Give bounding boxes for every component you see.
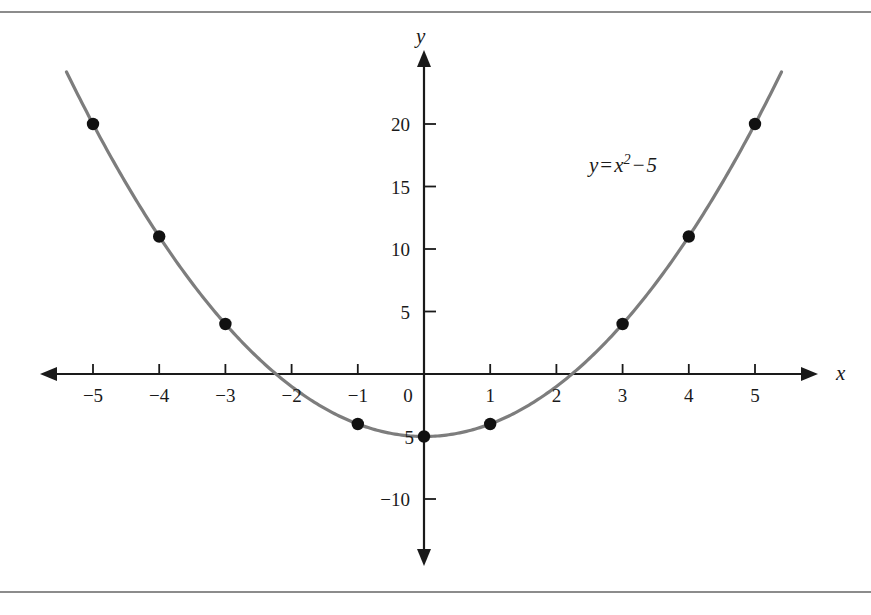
y-tick-label: 10 — [391, 240, 410, 259]
x-axis-arrow-left — [40, 367, 57, 381]
data-point — [153, 230, 165, 242]
y-tick-label: 15 — [391, 177, 410, 196]
x-tick-label: −4 — [149, 386, 169, 405]
y-tick-label: 5 — [401, 302, 411, 321]
equation-annotation: y=x2−5 — [589, 155, 657, 176]
data-point — [749, 118, 761, 130]
x-tick-label-origin: 0 — [403, 386, 413, 405]
parabola-plot — [0, 0, 871, 615]
x-axis-label: x — [836, 363, 845, 384]
equation-variable: x — [614, 153, 623, 177]
x-tick-label: 4 — [684, 386, 694, 405]
y-axis-label: y — [416, 26, 425, 47]
equation-minus-sign: − — [631, 153, 647, 177]
data-point — [87, 118, 99, 130]
data-point — [683, 230, 695, 242]
x-tick-label: −3 — [215, 386, 235, 405]
x-tick-label: −1 — [348, 386, 368, 405]
equation-exponent: 2 — [624, 151, 631, 167]
data-point — [484, 418, 496, 430]
x-tick-label: 1 — [485, 386, 495, 405]
x-tick-label: −5 — [83, 386, 103, 405]
data-point — [219, 318, 231, 330]
x-tick-label: −2 — [281, 386, 301, 405]
data-point — [418, 430, 430, 442]
x-tick-label: 3 — [618, 386, 628, 405]
data-point — [616, 318, 628, 330]
equation-equals: = — [598, 153, 614, 177]
figure-container: −5−4−3−2−10123452015105−105 x y y=x2−5 — [0, 0, 871, 615]
y-axis-arrow-up — [417, 50, 431, 67]
y-tick-label: 20 — [391, 115, 410, 134]
x-tick-label: 2 — [552, 386, 562, 405]
y-tick-label: −10 — [380, 490, 410, 509]
equation-constant: 5 — [646, 153, 657, 177]
x-tick-label: 5 — [750, 386, 760, 405]
y-axis-arrow-down — [417, 549, 431, 566]
vertex-value-label: 5 — [405, 427, 415, 446]
equation-lhs: y — [589, 153, 598, 177]
axes-group — [40, 50, 818, 566]
x-axis-arrow-right — [801, 367, 818, 381]
data-point — [352, 418, 364, 430]
